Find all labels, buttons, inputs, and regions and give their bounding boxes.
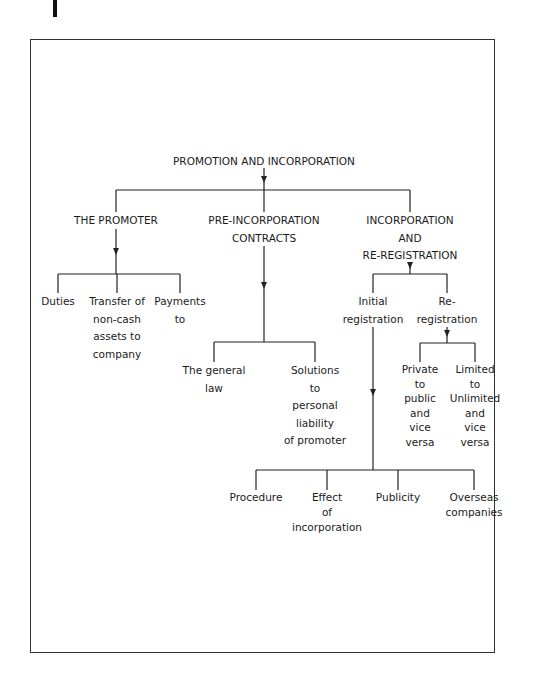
- node-label: to: [402, 377, 439, 392]
- node-transfer-of-non-cash-assets: Transfer of non-cash assets to company: [89, 293, 145, 363]
- root-label: PROMOTION AND INCORPORATION: [173, 153, 355, 171]
- node-label: vice: [450, 420, 501, 435]
- node-label: Re-: [417, 293, 478, 311]
- node-publicity: Publicity: [376, 490, 420, 505]
- node-label: non-cash: [89, 311, 145, 329]
- node-label: law: [183, 380, 246, 398]
- node-label: The general: [183, 362, 246, 380]
- node-duties: Duties: [41, 293, 75, 311]
- node-label: RE-REGISTRATION: [363, 247, 458, 265]
- node-label: liability: [284, 415, 346, 433]
- node-label: Limited: [450, 362, 501, 377]
- node-solutions-to-personal-liability: Solutions to personal liability of promo…: [284, 362, 346, 450]
- node-label: company: [89, 346, 145, 364]
- node-label: Duties: [41, 293, 75, 311]
- node-label: Unlimited: [450, 391, 501, 406]
- node-label: of promoter: [284, 432, 346, 450]
- node-label: and: [450, 406, 501, 421]
- node-label: and: [402, 406, 439, 421]
- node-label: CONTRACTS: [208, 230, 319, 248]
- node-incorporation-and-re-registration: INCORPORATION AND RE-REGISTRATION: [363, 212, 458, 265]
- node-label: of: [292, 505, 362, 520]
- node-label: versa: [450, 435, 501, 450]
- node-label: incorporation: [292, 520, 362, 535]
- node-label: Publicity: [376, 490, 420, 505]
- node-the-general-law: The general law: [183, 362, 246, 397]
- node-label: PRE-INCORPORATION: [208, 212, 319, 230]
- node-label: registration: [417, 311, 478, 329]
- node-pre-incorporation-contracts: PRE-INCORPORATION CONTRACTS: [208, 212, 319, 247]
- node-label: registration: [343, 311, 404, 329]
- node-label: public: [402, 391, 439, 406]
- node-overseas-companies: Overseas companies: [445, 490, 502, 520]
- node-label: AND: [363, 230, 458, 248]
- page: PROMOTION AND INCORPORATION THE PROMOTER…: [0, 0, 537, 698]
- node-initial-registration: Initial registration: [343, 293, 404, 328]
- node-label: to: [450, 377, 501, 392]
- node-label: Overseas: [445, 490, 502, 505]
- node-label: Solutions: [284, 362, 346, 380]
- node-label: Initial: [343, 293, 404, 311]
- node-label: Transfer of: [89, 293, 145, 311]
- node-label: Effect: [292, 490, 362, 505]
- node-label: Private: [402, 362, 439, 377]
- node-label: vice: [402, 420, 439, 435]
- node-payments-to: Payments to: [154, 293, 205, 328]
- node-label: Payments: [154, 293, 205, 311]
- node-label: THE PROMOTER: [74, 212, 158, 230]
- node-effect-of-incorporation: Effect of incorporation: [292, 490, 362, 535]
- node-label: to: [284, 380, 346, 398]
- node-label: versa: [402, 435, 439, 450]
- node-label: to: [154, 311, 205, 329]
- node-label: INCORPORATION: [363, 212, 458, 230]
- node-label: assets to: [89, 328, 145, 346]
- connector-lines: [0, 0, 537, 698]
- node-re-registration: Re- registration: [417, 293, 478, 328]
- node-procedure: Procedure: [230, 490, 283, 505]
- node-limited-to-unlimited: Limited to Unlimited and vice versa: [450, 362, 501, 450]
- node-label: personal: [284, 397, 346, 415]
- node-private-to-public: Private to public and vice versa: [402, 362, 439, 450]
- root-node: PROMOTION AND INCORPORATION: [173, 153, 355, 171]
- node-the-promoter: THE PROMOTER: [74, 212, 158, 230]
- node-label: Procedure: [230, 490, 283, 505]
- node-label: companies: [445, 505, 502, 520]
